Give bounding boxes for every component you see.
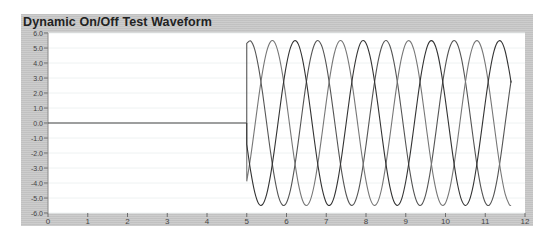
x-tick-label: 5 xyxy=(245,217,250,226)
x-tick-label: 0 xyxy=(46,217,51,226)
x-tick-label: 12 xyxy=(521,217,530,226)
x-axis: 0123456789101112 xyxy=(46,213,530,226)
y-axis: 6.05.04.03.02.01.00.0-1.0-2.0-3.0-4.0-5.… xyxy=(31,30,48,217)
x-tick-label: 3 xyxy=(165,217,170,226)
x-tick-label: 7 xyxy=(324,217,329,226)
y-tick-label: 4.0 xyxy=(33,60,43,67)
y-tick-label: 5.0 xyxy=(33,45,43,52)
x-tick-label: 9 xyxy=(404,217,409,226)
x-tick-label: 8 xyxy=(364,217,369,226)
y-tick-label: 2.0 xyxy=(33,90,43,97)
x-tick-label: 10 xyxy=(441,217,450,226)
y-tick-label: -2.0 xyxy=(31,150,43,157)
waveform-chart: 6.05.04.03.02.01.00.0-1.0-2.0-3.0-4.0-5.… xyxy=(0,0,555,239)
y-tick-label: -4.0 xyxy=(31,180,43,187)
y-tick-label: -3.0 xyxy=(31,165,43,172)
x-tick-label: 6 xyxy=(284,217,289,226)
y-tick-label: -1.0 xyxy=(31,135,43,142)
y-tick-label: 3.0 xyxy=(33,75,43,82)
y-tick-label: 0.0 xyxy=(33,120,43,127)
y-tick-label: -5.0 xyxy=(31,195,43,202)
x-tick-label: 1 xyxy=(86,217,91,226)
x-tick-label: 11 xyxy=(481,217,490,226)
y-tick-label: 6.0 xyxy=(33,30,43,37)
x-tick-label: 4 xyxy=(205,217,210,226)
y-tick-label: -6.0 xyxy=(31,210,43,217)
x-tick-label: 2 xyxy=(125,217,130,226)
y-tick-label: 1.0 xyxy=(33,105,43,112)
